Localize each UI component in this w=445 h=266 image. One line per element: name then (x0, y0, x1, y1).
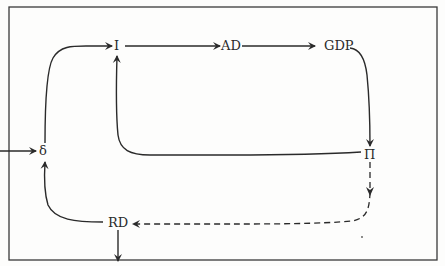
edge-delta-to-I (45, 46, 112, 143)
speck (361, 236, 363, 238)
node-AD: AD (221, 39, 241, 52)
edge-GDP-to-Pi (350, 48, 370, 146)
diagram-canvas: I AD GDP Π δ RD (0, 0, 445, 266)
node-RD: RD (108, 216, 128, 229)
node-GDP: GDP (324, 39, 354, 52)
edge-Pi-to-RD-dashed (133, 162, 370, 224)
dashed-arrowhead (366, 187, 374, 196)
node-I: I (114, 39, 119, 52)
node-delta: δ (39, 144, 47, 157)
node-Pi: Π (364, 148, 375, 161)
edge-RD-to-delta (44, 162, 103, 222)
edge-Pi-to-I (116, 56, 361, 155)
